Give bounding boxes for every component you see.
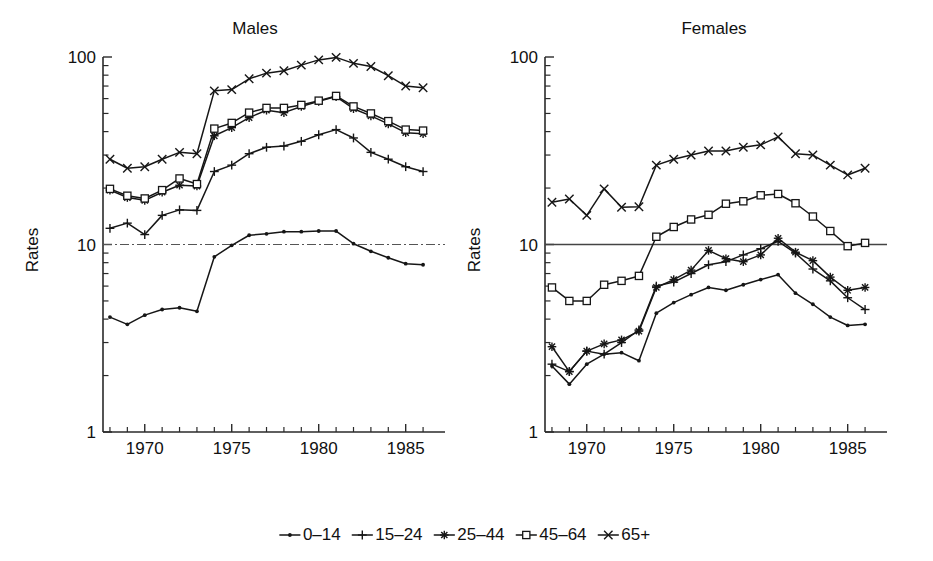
dot-marker — [707, 286, 711, 290]
dot-marker — [143, 313, 147, 317]
dot-marker — [741, 283, 745, 287]
series-65+ — [548, 133, 870, 220]
marker-square — [333, 92, 340, 99]
marker-square — [827, 227, 834, 234]
series-014 — [108, 229, 425, 326]
marker-cross — [861, 164, 869, 172]
marker-asterisk — [600, 340, 609, 349]
marker-square — [861, 239, 868, 246]
dot-marker — [689, 293, 693, 297]
dot-marker — [794, 291, 798, 295]
marker-asterisk — [652, 283, 661, 292]
dot-marker — [230, 243, 234, 247]
legend-item-1524[interactable]: 15–24 — [352, 525, 422, 544]
legend-item-65+[interactable]: 65+ — [598, 525, 650, 544]
series-line — [552, 137, 865, 216]
marker-square — [176, 175, 183, 182]
marker-dot — [369, 249, 373, 253]
marker-asterisk — [565, 367, 574, 376]
legend-item-014[interactable]: 0–14 — [280, 525, 341, 544]
square-marker — [705, 211, 712, 218]
dot-marker — [247, 233, 251, 237]
square-marker — [740, 198, 747, 205]
x-tick-label: 1985 — [387, 439, 425, 458]
marker-dot — [299, 230, 303, 234]
legend-label: 65+ — [621, 525, 650, 544]
dot-marker — [672, 301, 676, 305]
marker-square — [263, 104, 270, 111]
marker-dot — [654, 311, 658, 315]
marker-square — [124, 192, 131, 199]
y-tick-label: 10 — [519, 236, 538, 255]
marker-asterisk — [704, 246, 713, 255]
marker-square — [211, 125, 218, 132]
square-marker — [601, 281, 608, 288]
marker-square — [844, 243, 851, 250]
marker-plus — [332, 125, 341, 134]
marker-square — [246, 109, 253, 116]
dot-marker — [195, 309, 199, 313]
marker-plus — [704, 260, 713, 269]
marker-asterisk — [440, 531, 449, 540]
square-marker — [548, 284, 555, 291]
marker-square — [566, 297, 573, 304]
marker-square — [635, 272, 642, 279]
square-marker — [298, 101, 305, 108]
x-tick-label: 1970 — [568, 439, 606, 458]
marker-dot — [620, 351, 624, 355]
square-marker — [722, 200, 729, 207]
square-marker — [809, 213, 816, 220]
dot-marker — [125, 322, 129, 326]
marker-square — [705, 211, 712, 218]
square-marker — [419, 127, 426, 134]
dot-marker — [160, 308, 164, 312]
dot-marker — [811, 302, 815, 306]
square-marker — [688, 216, 695, 223]
marker-cross — [245, 75, 253, 83]
square-marker — [159, 187, 166, 194]
square-marker — [367, 110, 374, 117]
legend-label: 25–44 — [457, 525, 504, 544]
dot-marker — [585, 362, 589, 366]
dot-marker — [776, 273, 780, 277]
y-tick-label: 1 — [87, 423, 96, 442]
marker-dot — [794, 291, 798, 295]
y-tick-label: 10 — [77, 236, 96, 255]
marker-asterisk — [669, 275, 678, 284]
x-tick-label: 1980 — [742, 439, 780, 458]
marker-square — [583, 297, 590, 304]
marker-plus — [600, 350, 609, 359]
y-tick-label: 100 — [510, 48, 538, 67]
marker-dot — [386, 256, 390, 260]
figure-container: MalesRates1101001970197519801985FemalesR… — [0, 0, 933, 561]
marker-asterisk — [756, 251, 765, 260]
square-marker — [775, 190, 782, 197]
x-tick-label: 1975 — [213, 439, 251, 458]
x-tick-label: 1980 — [300, 439, 338, 458]
legend-item-4564[interactable]: 45–64 — [516, 525, 586, 544]
marker-dot — [724, 288, 728, 292]
marker-square — [350, 103, 357, 110]
dot-marker — [317, 229, 321, 233]
square-marker — [792, 200, 799, 207]
marker-square — [601, 281, 608, 288]
marker-dot — [288, 533, 292, 537]
marker-square — [193, 180, 200, 187]
marker-cross — [583, 211, 591, 219]
square-marker — [827, 227, 834, 234]
dot-marker — [724, 288, 728, 292]
legend-item-2544[interactable]: 25–44 — [434, 525, 504, 544]
marker-square — [159, 187, 166, 194]
dot-marker — [352, 242, 356, 246]
square-marker — [280, 104, 287, 111]
square-marker — [211, 125, 218, 132]
marker-cross — [843, 171, 851, 179]
dot-marker — [265, 232, 269, 236]
y-tick-label: 1 — [529, 423, 538, 442]
marker-dot — [108, 315, 112, 319]
dot-marker — [299, 230, 303, 234]
marker-plus — [210, 167, 219, 176]
marker-cross — [826, 161, 834, 169]
square-marker — [228, 119, 235, 126]
square-marker — [861, 239, 868, 246]
